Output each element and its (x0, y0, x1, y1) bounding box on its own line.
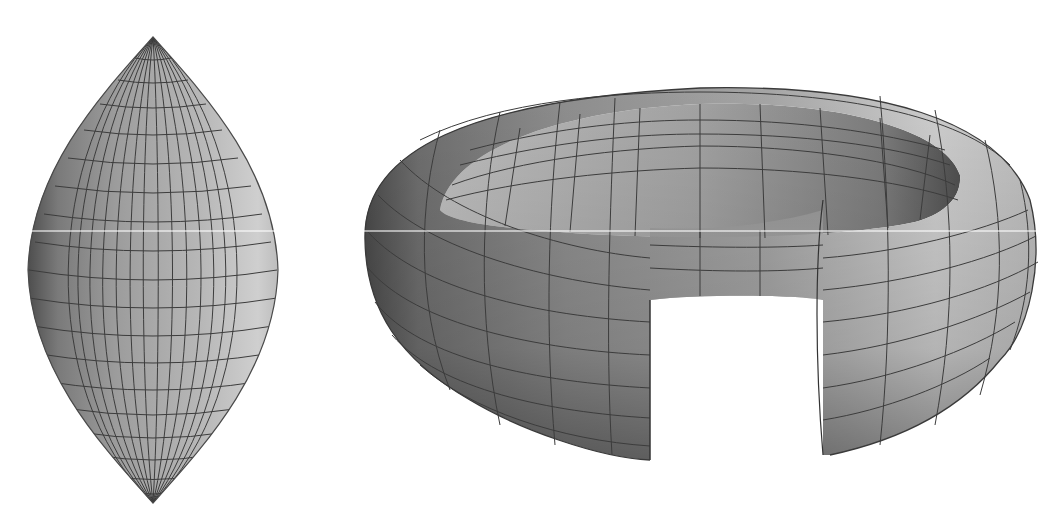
lemon-surface (28, 37, 278, 503)
figure-canvas (0, 0, 1063, 527)
scan-artifact-line (0, 230, 1063, 232)
torus-surface (365, 88, 1038, 460)
figure: Spindle (lemon) surface Torus with front… (0, 0, 1063, 527)
